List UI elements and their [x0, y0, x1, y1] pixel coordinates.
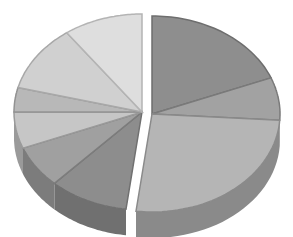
pie-slice-3 [136, 114, 280, 212]
pie-chart-3d [0, 0, 293, 237]
